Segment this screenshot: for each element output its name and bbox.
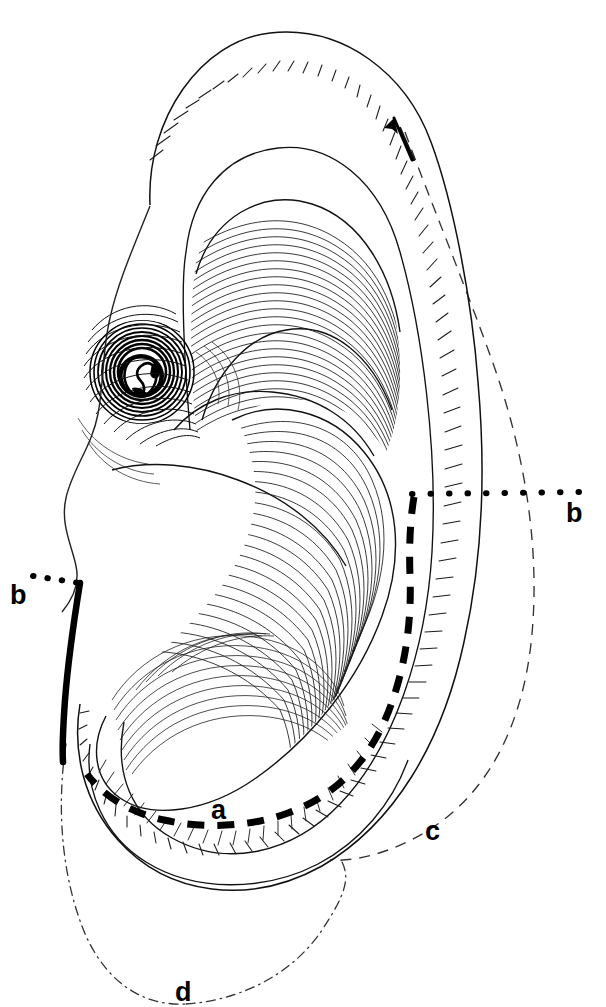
label-b-right: b — [566, 500, 583, 527]
paper-background — [0, 0, 606, 1007]
label-b-left: b — [10, 582, 27, 609]
label-a: a — [211, 797, 226, 824]
label-c: c — [425, 818, 440, 845]
ear-line-drawing — [0, 0, 606, 1007]
label-d: d — [175, 979, 192, 1006]
ear-anatomy-figure: a b b c d — [0, 0, 606, 1007]
